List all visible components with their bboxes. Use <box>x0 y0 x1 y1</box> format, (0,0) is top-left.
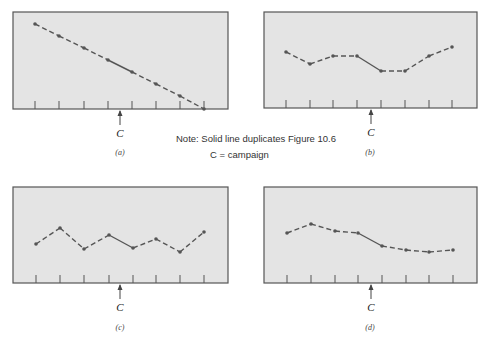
arrowhead-icon <box>369 109 374 115</box>
data-point <box>355 54 359 58</box>
data-point <box>450 45 454 49</box>
data-point <box>82 247 86 251</box>
panel-label: (b) <box>365 148 375 157</box>
data-point <box>380 244 384 248</box>
campaign-label: C <box>367 301 375 313</box>
data-point <box>356 231 360 235</box>
data-point <box>308 62 312 66</box>
data-point <box>404 248 408 252</box>
data-point <box>202 107 206 111</box>
data-point <box>130 70 134 74</box>
plot-area <box>264 187 477 283</box>
data-point <box>451 248 455 252</box>
data-point <box>154 237 158 241</box>
data-point <box>379 69 383 73</box>
data-point <box>427 54 431 58</box>
figure-note: Note: Solid line duplicates Figure 10.6 <box>176 133 336 144</box>
data-point <box>131 246 135 250</box>
data-point <box>285 231 289 235</box>
data-point <box>154 82 158 86</box>
data-point <box>284 50 288 54</box>
data-point <box>331 54 335 58</box>
data-point <box>403 69 407 73</box>
panel-label: (a) <box>115 148 125 157</box>
data-point <box>33 22 37 26</box>
plot-area <box>264 12 477 108</box>
data-point <box>58 226 62 230</box>
data-point <box>202 230 206 234</box>
campaign-legend: C = campaign <box>210 149 269 160</box>
data-point <box>427 250 431 254</box>
panel-label: (d) <box>365 323 375 332</box>
data-point <box>106 58 110 62</box>
figure-canvas: C(a)C(b)C(c)C(d) <box>0 0 491 347</box>
data-point <box>178 250 182 254</box>
plot-area <box>13 12 228 109</box>
data-point <box>34 242 38 246</box>
data-point <box>57 34 61 38</box>
data-point <box>333 229 337 233</box>
panel-label: (c) <box>116 323 125 332</box>
data-point <box>178 94 182 98</box>
campaign-label: C <box>116 301 124 313</box>
data-point <box>82 46 86 50</box>
arrowhead-icon <box>369 284 374 290</box>
chart-panel-c: C(c) <box>13 187 228 332</box>
campaign-label: C <box>116 127 124 139</box>
arrowhead-icon <box>118 110 123 116</box>
data-point <box>107 233 111 237</box>
campaign-label: C <box>367 126 375 138</box>
plot-area <box>13 187 228 283</box>
data-point <box>309 222 313 226</box>
arrowhead-icon <box>118 284 123 290</box>
chart-panel-d: C(d) <box>264 187 477 332</box>
